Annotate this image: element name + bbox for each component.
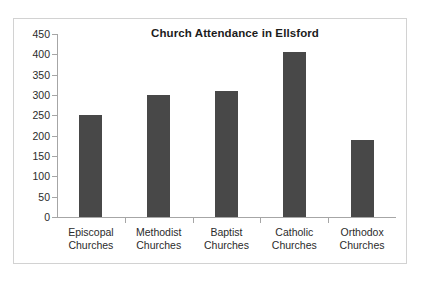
y-axis-tick-label: 450 — [16, 29, 50, 40]
bar — [215, 91, 238, 217]
x-axis-line — [57, 217, 396, 218]
y-axis-tick-label: 100 — [16, 171, 50, 182]
y-axis-tick-label: 400 — [16, 49, 50, 60]
y-axis-tick-label: 50 — [16, 192, 50, 203]
x-axis-tick — [193, 218, 194, 223]
x-axis-tick — [260, 218, 261, 223]
x-axis-tick — [328, 218, 329, 223]
chart-container: Church Attendance in Ellsford 0501001502… — [13, 18, 407, 264]
y-axis-tick-label: 150 — [16, 151, 50, 162]
x-axis-category-label: OrthodoxChurches — [328, 226, 396, 252]
bar — [351, 140, 374, 217]
y-axis-tick-label: 0 — [16, 212, 50, 223]
x-axis-tick — [125, 218, 126, 223]
y-axis-tick-label: 300 — [16, 90, 50, 101]
y-axis-tick-label: 250 — [16, 110, 50, 121]
y-axis-tick — [52, 217, 57, 218]
bar — [79, 115, 102, 217]
y-axis-tick-label: 350 — [16, 70, 50, 81]
bar — [147, 95, 170, 217]
y-axis-tick-label: 200 — [16, 131, 50, 142]
x-axis-category-label: MethodistChurches — [125, 226, 193, 252]
bar-series — [57, 34, 396, 217]
bar — [283, 52, 306, 217]
x-axis-category-label: CatholicChurches — [260, 226, 328, 252]
x-axis-category-label: BaptistChurches — [193, 226, 261, 252]
x-axis-category-label: EpiscopalChurches — [57, 226, 125, 252]
